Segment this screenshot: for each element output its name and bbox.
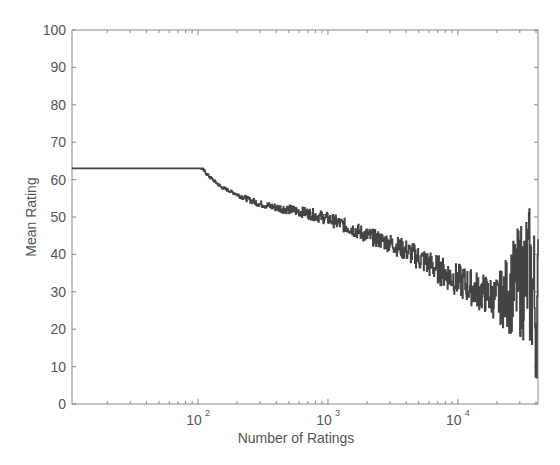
x-tick-exponent: 2 [205, 408, 210, 418]
x-tick-label: 10 [186, 412, 202, 428]
y-tick-label: 20 [50, 321, 66, 337]
x-tick-exponent: 3 [335, 408, 340, 418]
y-tick-label: 60 [50, 172, 66, 188]
y-tick-label: 80 [50, 97, 66, 113]
y-tick-label: 90 [50, 59, 66, 75]
y-tick-label: 0 [58, 396, 66, 412]
plot-frame [72, 30, 538, 404]
y-tick-label: 30 [50, 284, 66, 300]
line-chart: 0102030405060708090100 102103104 Number … [0, 0, 560, 465]
y-axis-label: Mean Rating [23, 177, 39, 256]
y-tick-label: 40 [50, 246, 66, 262]
y-tick-label: 50 [50, 209, 66, 225]
x-tick-exponent: 4 [465, 408, 470, 418]
y-tick-label: 100 [43, 22, 67, 38]
y-tick-label: 70 [50, 134, 66, 150]
y-tick-label: 10 [50, 359, 66, 375]
x-tick-label: 10 [316, 412, 332, 428]
x-axis-label: Number of Ratings [238, 430, 355, 446]
x-tick-label: 10 [446, 412, 462, 428]
